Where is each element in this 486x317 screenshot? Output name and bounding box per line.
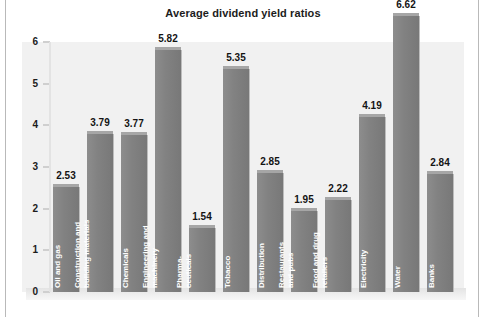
bar-value-label: 3.77 [115,118,153,129]
bar[interactable]: Pharma-ceuticals [189,228,215,292]
figure-left-rule [5,0,6,317]
bar-group[interactable]: Tobacco5.35 [223,42,249,292]
y-axis-tick-label: 2 [32,203,38,214]
figure-right-rule [478,0,479,317]
y-axis-tick-label: 0 [32,286,38,297]
bar-value-label: 2.84 [421,157,459,168]
y-axis-tick-label: 4 [32,119,38,130]
y-axis-line [49,42,51,292]
bar-group[interactable]: Electricity4.19 [359,42,385,292]
bar-value-label: 2.53 [47,170,85,181]
bar-top-face [53,184,79,187]
bar-top-face [393,13,419,16]
bar-top-face [291,208,317,211]
bars-area: Oil and gas2.53Construction andbuilding … [53,42,463,292]
bar[interactable]: Electricity [359,117,385,292]
bar-value-label: 5.82 [149,33,187,44]
y-axis: 6543210 [22,42,50,292]
bar-top-face [87,131,113,134]
bar-value-label: 3.79 [81,117,119,128]
bar-value-label: 6.62 [387,0,425,10]
bar-group[interactable]: Food and drugretailers2.22 [325,42,351,292]
bar-value-label: 1.54 [183,211,221,222]
bar-top-face [257,170,283,173]
bar-top-face [325,197,351,200]
y-axis-tick-label: 5 [32,78,38,89]
bar-top-face [121,132,147,135]
bar-top-face [359,114,385,117]
bar-top-face [155,47,181,50]
bar-top-face [427,171,453,174]
bar-value-label: 1.95 [285,194,323,205]
bar-group[interactable]: Pharma-ceuticals1.54 [189,42,215,292]
bar[interactable]: Construction andbuilding materials [87,134,113,292]
y-axis-tick-label: 3 [32,161,38,172]
bar[interactable]: Water [393,16,419,292]
bar[interactable]: Food and drugretailers [325,200,351,293]
bar-value-label: 4.19 [353,100,391,111]
y-axis-tick-label: 1 [32,244,38,255]
bar[interactable]: Banks [427,174,453,292]
bar-value-label: 5.35 [217,52,255,63]
bar[interactable]: Tobacco [223,69,249,292]
y-axis-tick-label: 6 [32,36,38,47]
bar-group[interactable]: Banks2.84 [427,42,453,292]
bar-top-face [223,66,249,69]
bar-top-face [189,225,215,228]
bar-value-label: 2.85 [251,156,289,167]
bar-group[interactable]: Water6.62 [393,42,419,292]
chart-figure: Average dividend yield ratios 6543210 Oi… [0,0,486,317]
bar-value-label: 2.22 [319,183,357,194]
bar-group[interactable]: Construction andbuilding materials3.79 [87,42,113,292]
